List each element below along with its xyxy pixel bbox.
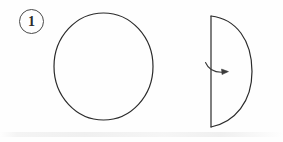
step-number-label: 1	[28, 14, 35, 28]
step-number-badge: 1	[19, 9, 44, 34]
figure-container: 1	[0, 0, 283, 142]
scan-smudge-artifact	[0, 132, 283, 137]
